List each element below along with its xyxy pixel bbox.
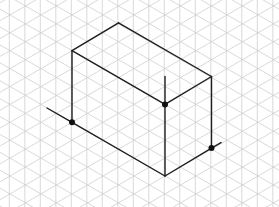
bottom-left-point <box>69 119 75 125</box>
bottom-right-point <box>209 145 215 151</box>
top-front-point <box>162 101 168 107</box>
isometric-drawing <box>0 0 279 207</box>
